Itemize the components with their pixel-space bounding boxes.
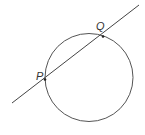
circle-secant-diagram: P Q [0, 0, 145, 135]
circle [45, 34, 133, 122]
point-q-dot [102, 35, 105, 38]
point-p-dot [44, 78, 47, 81]
point-p-label: P [36, 70, 44, 82]
point-q-label: Q [96, 20, 105, 32]
secant-line [12, 5, 139, 103]
